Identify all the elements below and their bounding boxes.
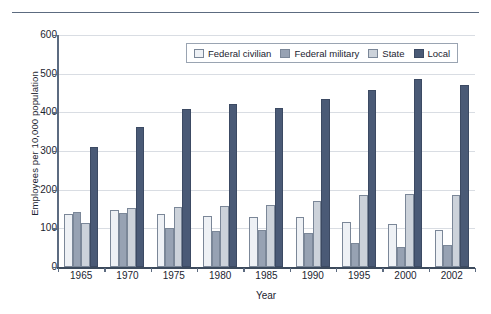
legend-swatch-icon bbox=[280, 49, 290, 58]
bar bbox=[203, 216, 212, 267]
y-tick-mark bbox=[52, 112, 57, 113]
bar bbox=[212, 231, 221, 267]
bar bbox=[110, 210, 119, 267]
y-tick-mark bbox=[52, 35, 57, 36]
bar bbox=[460, 85, 469, 267]
bar bbox=[435, 230, 444, 267]
bar bbox=[342, 222, 351, 267]
bar bbox=[182, 109, 191, 267]
y-tick-mark bbox=[52, 151, 57, 152]
bar bbox=[304, 233, 313, 267]
x-tick-mark bbox=[382, 268, 383, 272]
bar bbox=[81, 223, 90, 267]
bar-group bbox=[429, 35, 475, 267]
bar-group bbox=[336, 35, 382, 267]
bar bbox=[174, 207, 183, 267]
y-tick-mark bbox=[52, 267, 57, 268]
bar bbox=[443, 245, 452, 267]
bar bbox=[90, 147, 99, 267]
x-tick-label: 1970 bbox=[104, 270, 150, 281]
legend-item: Local bbox=[414, 48, 451, 59]
bar-group bbox=[104, 35, 150, 267]
legend-label: Federal civilian bbox=[208, 48, 271, 59]
x-tick-label: 2000 bbox=[382, 270, 428, 281]
bar-group bbox=[243, 35, 289, 267]
bar bbox=[414, 79, 423, 267]
bar bbox=[351, 243, 360, 267]
bar bbox=[136, 127, 145, 267]
x-axis-line bbox=[57, 267, 475, 269]
bar bbox=[165, 228, 174, 267]
x-tick-label: 1980 bbox=[197, 270, 243, 281]
x-axis-title: Year bbox=[57, 290, 475, 301]
bar-groups bbox=[58, 35, 475, 267]
legend-label: Federal military bbox=[294, 48, 359, 59]
x-tick-mark bbox=[243, 268, 244, 272]
x-tick-mark bbox=[336, 268, 337, 272]
x-axis-tick-labels: 196519701975198019851990199520002002 bbox=[58, 270, 475, 281]
bar bbox=[359, 195, 368, 267]
legend-item: Federal civilian bbox=[194, 48, 271, 59]
bar bbox=[368, 90, 377, 267]
y-axis-tick-labels: 0100200300400500600 bbox=[12, 35, 57, 268]
bar bbox=[119, 213, 128, 267]
bar-group bbox=[290, 35, 336, 267]
y-tick-mark bbox=[52, 228, 57, 229]
x-tick-mark bbox=[197, 268, 198, 272]
x-tick-label: 1975 bbox=[151, 270, 197, 281]
bar bbox=[127, 208, 136, 267]
bar bbox=[405, 194, 414, 267]
y-tick-mark bbox=[52, 190, 57, 191]
bar bbox=[313, 201, 322, 268]
legend-swatch-icon bbox=[414, 49, 424, 58]
bar bbox=[220, 206, 229, 267]
x-tick-label: 1995 bbox=[336, 270, 382, 281]
x-tick-label: 1965 bbox=[58, 270, 104, 281]
x-tick-mark bbox=[475, 268, 476, 272]
bar-group bbox=[151, 35, 197, 267]
x-tick-mark bbox=[58, 268, 59, 272]
figure-top-rule bbox=[12, 12, 479, 13]
legend-label: Local bbox=[428, 48, 451, 59]
chart-legend: Federal civilianFederal militaryStateLoc… bbox=[186, 43, 458, 63]
bar bbox=[64, 214, 73, 267]
x-tick-label: 2002 bbox=[429, 270, 475, 281]
bar bbox=[229, 104, 238, 267]
bar bbox=[397, 247, 406, 267]
chart-figure: Employees per 10,000 population 01002003… bbox=[0, 0, 491, 314]
legend-item: Federal military bbox=[280, 48, 359, 59]
legend-swatch-icon bbox=[194, 49, 204, 58]
bar bbox=[73, 212, 82, 267]
x-tick-mark bbox=[151, 268, 152, 272]
bar bbox=[157, 214, 166, 267]
x-tick-mark bbox=[290, 268, 291, 272]
bar-group bbox=[58, 35, 104, 267]
bar bbox=[266, 205, 275, 267]
bar bbox=[388, 224, 397, 267]
x-tick-mark bbox=[104, 268, 105, 272]
bar bbox=[249, 217, 258, 267]
y-tick-mark bbox=[52, 74, 57, 75]
x-tick-label: 1990 bbox=[290, 270, 336, 281]
bar bbox=[452, 195, 461, 267]
x-tick-label: 1985 bbox=[243, 270, 289, 281]
bar bbox=[296, 217, 305, 267]
bar-group bbox=[197, 35, 243, 267]
legend-item: State bbox=[368, 48, 404, 59]
bar bbox=[321, 99, 330, 267]
x-tick-mark bbox=[429, 268, 430, 272]
bar bbox=[275, 108, 284, 267]
legend-label: State bbox=[382, 48, 404, 59]
bar bbox=[258, 230, 267, 267]
legend-swatch-icon bbox=[368, 49, 378, 58]
bar-group bbox=[382, 35, 428, 267]
